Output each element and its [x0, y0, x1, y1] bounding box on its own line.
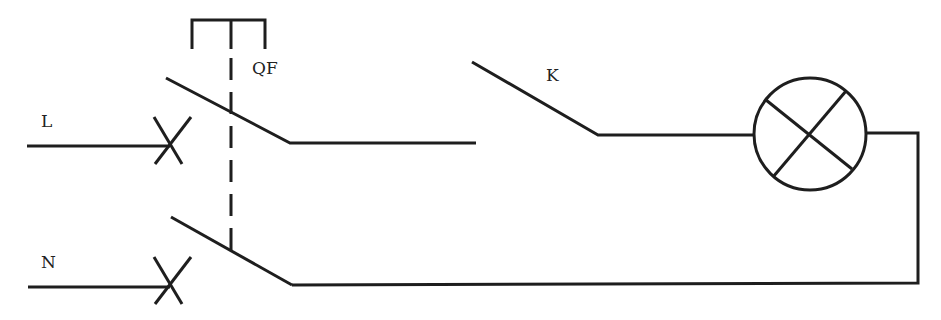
breaker-label: QF: [252, 60, 278, 77]
lamp-icon: [754, 78, 866, 190]
return-conductor: [292, 133, 918, 285]
terminal-x-icon: [154, 257, 182, 304]
switch-k: [472, 62, 754, 135]
line-label: L: [41, 113, 52, 130]
terminal-x-icon: [154, 117, 182, 164]
neutral-label: N: [41, 254, 56, 271]
circuit-diagram: L N QF K: [0, 0, 941, 320]
switch-label: K: [546, 67, 559, 84]
breaker-qf: [166, 20, 476, 285]
circuit-drawing: [0, 0, 941, 320]
